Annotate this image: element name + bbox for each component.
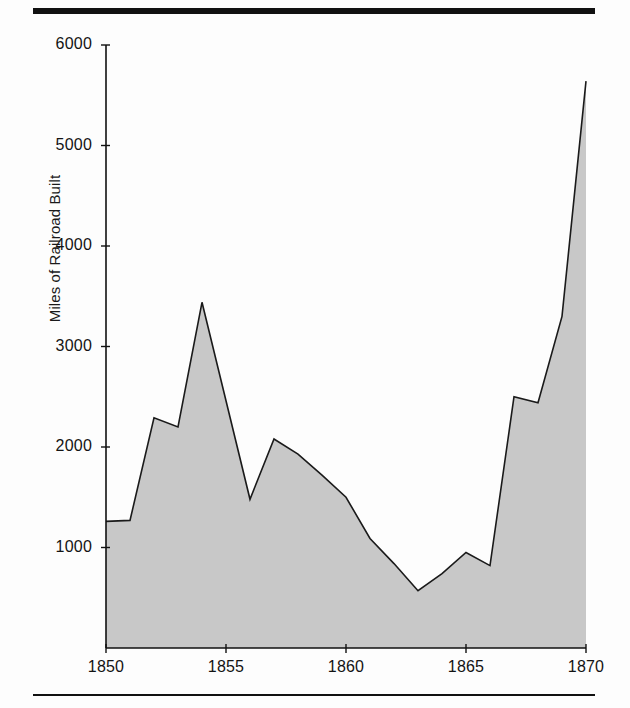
x-tick-label: 1860 [311,658,381,676]
x-tick-label: 1870 [551,658,621,676]
x-tick-label: 1850 [71,658,141,676]
x-tick-label: 1855 [191,658,261,676]
area-chart-svg [0,0,630,708]
y-tick-label: 4000 [22,236,92,254]
figure-container: Miles of Railroad Built 1000200030004000… [0,0,630,708]
x-tick-label: 1865 [431,658,501,676]
y-tick-label: 5000 [22,136,92,154]
y-tick-label: 2000 [22,437,92,455]
y-tick-label: 3000 [22,337,92,355]
y-tick-label: 1000 [22,538,92,556]
area-fill [106,81,586,648]
y-tick-label: 6000 [22,35,92,53]
